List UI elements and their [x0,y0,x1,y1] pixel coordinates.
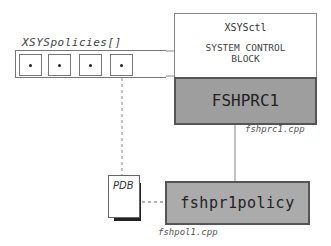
fshprc1-box: FSHPRC1 [174,77,317,125]
system-control-block: XSYSctl SYSTEM CONTROL BLOCK [174,13,317,79]
fshpr1policy-label: fshpr1policy [167,183,308,223]
policies-array [15,50,166,78]
fshpol1-file-label: fshpol1.cpp [158,227,218,237]
control-block-title: XSYSctl [175,22,316,33]
pdb-document-icon: PDB [108,175,140,218]
array-cell [19,54,42,76]
pdb-label: PDB [109,176,139,191]
array-cell [110,54,133,76]
pointer-dot-icon [120,64,123,67]
pointer-dot-icon [29,64,32,67]
fshpr1policy-box: fshpr1policy [165,181,310,225]
pointer-dot-icon [58,64,61,67]
fshprc1-file-label: fshprc1.cpp [245,124,305,134]
array-label: XSYSpolicies[] [22,36,122,49]
array-cell [48,54,71,76]
array-cell [79,54,102,76]
control-block-description: SYSTEM CONTROL BLOCK [175,42,316,64]
fshprc1-label: FSHPRC1 [176,79,315,123]
pointer-dot-icon [89,64,92,67]
